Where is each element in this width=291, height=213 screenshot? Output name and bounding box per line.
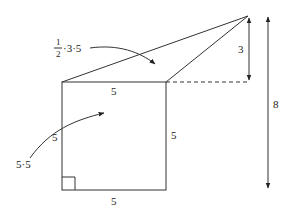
fraction-numerator: 1	[56, 37, 61, 47]
triangle-shape	[62, 16, 248, 82]
right-angle-marker	[62, 177, 75, 190]
square-pointer-arrow	[30, 113, 104, 158]
top-side-label: 5	[111, 85, 117, 97]
bottom-side-label: 5	[111, 195, 117, 207]
triangle-area-product: ·3·5	[63, 42, 82, 54]
height-3-label: 3	[238, 43, 244, 55]
triangle-pointer-arrow	[90, 47, 155, 64]
right-side-label: 5	[171, 129, 177, 141]
left-side-label: 5	[52, 131, 58, 143]
triangle-area-label: 1 2 ·3·5	[54, 37, 82, 59]
geometry-diagram: 1 2 ·3·5 5·5 5 5 5 5 3 8	[0, 0, 291, 213]
fraction-denominator: 2	[56, 49, 61, 59]
square-area-label: 5·5	[16, 158, 31, 170]
square-shape	[62, 82, 166, 190]
height-8-label: 8	[273, 98, 279, 110]
